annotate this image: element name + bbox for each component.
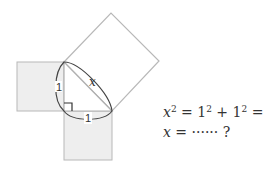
eq2-var: x — [163, 124, 171, 140]
eq1-rest-a: = 1 — [177, 104, 207, 120]
label-hypotenuse: x — [89, 75, 96, 89]
pythagoras-diagram: 1 1 x — [0, 0, 265, 171]
equation-line-1: x2 = 12 + 12 = 2 — [163, 104, 265, 120]
label-leg-b: 1 — [85, 112, 91, 124]
eq1-rest-c: = 2 — [247, 104, 265, 120]
eq2-rest: = ······ ? — [171, 124, 230, 140]
equation-line-2: x = ······ ? — [163, 124, 230, 140]
eq1-var: x — [163, 104, 171, 120]
label-leg-a: 1 — [56, 81, 62, 93]
eq1-rest-b: + 1 — [212, 104, 242, 120]
